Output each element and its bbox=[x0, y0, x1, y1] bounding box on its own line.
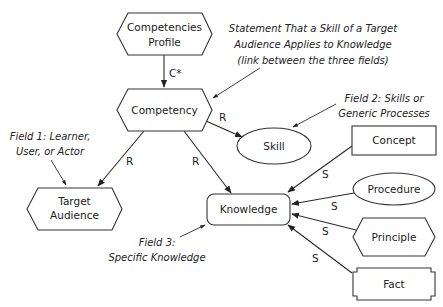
edge-competency-to-knowledge: R bbox=[184, 131, 231, 193]
edge-label: S bbox=[322, 225, 329, 237]
annotation-field1: Field 1: Learner, User, or Actor bbox=[10, 131, 91, 157]
node-label: Principle bbox=[372, 231, 417, 243]
node-knowledge[interactable]: Knowledge bbox=[207, 194, 290, 225]
annotation-line2: Specific Knowledge bbox=[108, 252, 205, 263]
hexagon-shape bbox=[117, 13, 212, 55]
node-label: Concept bbox=[372, 134, 415, 146]
edge-line bbox=[98, 131, 144, 186]
edge-label: R bbox=[126, 155, 133, 167]
edge-line bbox=[206, 121, 242, 137]
node-label-line1: Target bbox=[57, 195, 90, 207]
annotation-field2: Field 2: Skills or Generic Processes bbox=[338, 93, 430, 119]
annotation-line3: (link between the three fields) bbox=[237, 55, 388, 66]
field3-pointer bbox=[180, 225, 205, 237]
node-label-line1: Competencies bbox=[127, 21, 202, 33]
annotation-field3: Field 3: Specific Knowledge bbox=[108, 237, 205, 263]
annotation-line2: Generic Processes bbox=[338, 108, 430, 119]
node-label: Knowledge bbox=[220, 203, 278, 215]
node-fact[interactable]: Fact bbox=[353, 268, 435, 300]
field2-pointer bbox=[293, 104, 336, 127]
edge-label: R bbox=[192, 155, 199, 167]
edge-label: R bbox=[219, 111, 226, 123]
annotation-line1: Statement That a Skill of a Target bbox=[229, 23, 398, 34]
node-label: Skill bbox=[263, 140, 285, 152]
edge-procedure-to-knowledge: S bbox=[292, 193, 354, 212]
edge-competency-to-skill: R bbox=[206, 111, 242, 137]
edge-profile-to-competency: C* bbox=[164, 55, 182, 87]
node-principle[interactable]: Principle bbox=[353, 218, 435, 256]
statement-pointer bbox=[213, 68, 260, 98]
annotation-line1: Field 1: Learner, bbox=[10, 131, 91, 142]
field1-pointer bbox=[51, 160, 66, 185]
competency-diagram: C* R R R S S S S Competencies Profile bbox=[0, 0, 443, 307]
node-label: Procedure bbox=[368, 183, 421, 195]
annotation-line1: Field 3: bbox=[139, 237, 176, 248]
edge-label: S bbox=[331, 200, 338, 212]
edge-line bbox=[292, 193, 354, 204]
edge-line bbox=[288, 225, 352, 273]
node-competencies-profile[interactable]: Competencies Profile bbox=[117, 13, 212, 55]
node-label: Competency bbox=[131, 104, 197, 116]
edge-competency-to-audience: R bbox=[98, 131, 144, 186]
node-competency[interactable]: Competency bbox=[117, 89, 212, 131]
annotation-line2: User, or Actor bbox=[16, 146, 85, 157]
edge-label: C* bbox=[169, 67, 182, 79]
node-concept[interactable]: Concept bbox=[352, 126, 436, 155]
node-label: Fact bbox=[383, 278, 404, 290]
edge-fact-to-knowledge: S bbox=[288, 225, 352, 273]
annotation-statement: Statement That a Skill of a Target Audie… bbox=[229, 23, 398, 66]
node-label-line2: Audience bbox=[50, 209, 99, 221]
node-skill[interactable]: Skill bbox=[237, 128, 311, 164]
node-procedure[interactable]: Procedure bbox=[353, 173, 435, 205]
node-target-audience[interactable]: Target Audience bbox=[27, 188, 122, 230]
edge-principle-to-knowledge: S bbox=[292, 214, 356, 237]
node-label-line2: Profile bbox=[148, 36, 181, 48]
annotation-line1: Field 2: Skills or bbox=[345, 93, 425, 104]
edge-label: S bbox=[322, 168, 329, 180]
edge-label: S bbox=[312, 252, 319, 264]
annotation-line2: Audience Applies to Knowledge bbox=[233, 39, 391, 50]
